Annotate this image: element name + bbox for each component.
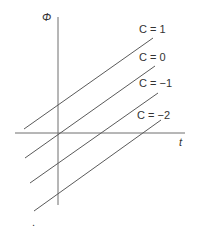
line-c-neg1 xyxy=(30,93,158,183)
line-c-neg2 xyxy=(34,120,161,211)
t-axis-label: t xyxy=(179,136,183,148)
phi-axis-label: Φ xyxy=(42,11,51,23)
label-c-1: C = 1 xyxy=(139,23,166,35)
label-c-neg2: C = −2 xyxy=(137,109,170,121)
phase-line-diagram: Φ t C = 1 C = 0 C = −1 C = −2 . xyxy=(0,0,200,228)
label-c-neg1: C = −1 xyxy=(139,77,172,89)
footer-mark: . xyxy=(32,216,35,228)
label-c-0: C = 0 xyxy=(139,51,166,63)
line-c-1 xyxy=(24,38,153,129)
line-c-0 xyxy=(25,66,155,158)
